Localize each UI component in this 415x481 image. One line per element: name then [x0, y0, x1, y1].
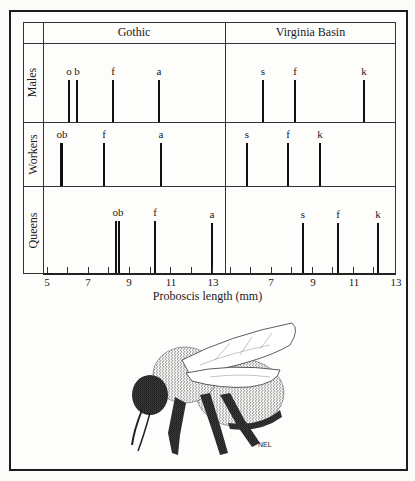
bar-queens-gothic-f [154, 221, 156, 273]
bar-males-gothic-a [158, 80, 160, 122]
row-label-queens: Queens [23, 186, 43, 274]
label-k: k [317, 128, 323, 140]
bar-males-virginia-k [363, 80, 365, 122]
bar-queens-gothic-a [211, 223, 213, 273]
bar-queens-gothic-b [118, 221, 120, 273]
bar-males-gothic-b [76, 80, 78, 122]
label-ob: ob [113, 206, 124, 218]
bar-males-virginia-f [294, 80, 296, 122]
x-tick [150, 267, 151, 273]
x-tick [170, 267, 171, 273]
label-a: a [159, 128, 164, 140]
chart-area [23, 22, 396, 274]
x-tick [47, 267, 48, 273]
row-label-text: Workers [26, 134, 41, 174]
x-tick [129, 267, 130, 273]
x-tick [373, 267, 374, 273]
panel-header-virginia-basin: Virginia Basin [225, 22, 396, 43]
row-label-males: Males [23, 43, 43, 122]
header-divider [23, 43, 396, 44]
label-s: s [245, 128, 249, 140]
panel-header-gothic: Gothic [43, 22, 225, 43]
bar-males-gothic-f [112, 80, 114, 122]
x-tick [191, 267, 192, 273]
label-ob: ob [57, 128, 68, 140]
x-axis-line [43, 273, 396, 275]
x-tick [332, 267, 333, 273]
label-s: s [301, 208, 305, 220]
x-tick [250, 267, 251, 273]
x-tick-label: 13 [208, 276, 219, 288]
x-tick-label: 7 [85, 276, 91, 288]
x-tick [271, 267, 272, 273]
label-a: a [210, 208, 215, 220]
bar-workers-gothic-ob [60, 143, 63, 186]
bar-workers-virginia-f [287, 143, 289, 186]
x-tick [108, 267, 109, 273]
x-tick [88, 267, 89, 273]
label-f: f [102, 128, 106, 140]
label-column-divider [43, 22, 44, 274]
panel-divider [225, 22, 226, 274]
row-divider-workers-queens [23, 186, 396, 187]
bar-workers-virginia-s [246, 143, 248, 186]
bar-workers-virginia-k [319, 143, 321, 186]
bar-queens-gothic-o [115, 221, 117, 273]
x-tick [353, 267, 354, 273]
label-s: s [261, 65, 265, 77]
x-tick [67, 267, 68, 273]
x-tick-label: 7 [268, 276, 274, 288]
label-b: b [74, 65, 80, 77]
bar-workers-gothic-f [103, 143, 105, 186]
row-label-workers: Workers [23, 122, 43, 186]
bar-males-virginia-s [262, 80, 264, 122]
artist-signature: NEL [258, 441, 272, 448]
bumblebee-illustration: NEL [120, 315, 300, 465]
label-o: o [66, 65, 72, 77]
x-axis-title: Proboscis length (mm) [0, 289, 415, 304]
x-tick [212, 267, 213, 273]
x-tick-label: 13 [391, 276, 402, 288]
label-k: k [375, 208, 381, 220]
label-f: f [286, 128, 290, 140]
x-tick [291, 267, 292, 273]
label-k: k [361, 65, 367, 77]
row-label-text: Males [26, 68, 41, 97]
bar-queens-virginia-s [302, 223, 304, 273]
bar-queens-virginia-f [337, 223, 339, 273]
x-tick-label: 11 [166, 276, 177, 288]
label-f: f [293, 65, 297, 77]
x-tick-label: 9 [310, 276, 316, 288]
x-tick-label: 5 [44, 276, 50, 288]
row-label-text: Queens [26, 212, 41, 248]
label-a: a [157, 65, 162, 77]
bar-males-gothic-o [68, 80, 70, 122]
bar-queens-virginia-k [377, 223, 379, 273]
label-f: f [111, 65, 115, 77]
label-f: f [336, 208, 340, 220]
bar-workers-gothic-a [160, 143, 162, 186]
row-divider-males-workers [23, 122, 396, 123]
x-tick [230, 267, 231, 273]
x-tick-label: 11 [349, 276, 360, 288]
x-tick [312, 267, 313, 273]
x-tick-label: 9 [126, 276, 132, 288]
label-f: f [153, 206, 157, 218]
